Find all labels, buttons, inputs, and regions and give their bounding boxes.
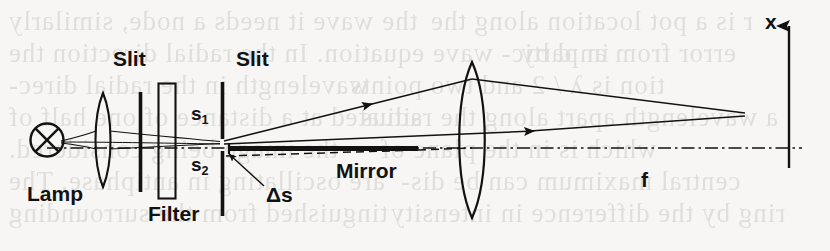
filter-plate (159, 84, 176, 199)
filter-label: Filter (148, 203, 199, 224)
imaging-lens (459, 62, 485, 218)
source-s1-subscript: 1 (202, 113, 209, 127)
source-s1-letter: s (191, 103, 202, 124)
first-slit-label: Slit (113, 48, 146, 69)
lamp-symbol (31, 124, 64, 157)
source-s2-subscript: 2 (202, 164, 209, 178)
lamp-label: Lamp (27, 183, 83, 204)
focal-length-label: f (641, 169, 648, 190)
source-s1-label: s1 (191, 104, 209, 126)
delta-s-leader (229, 154, 264, 186)
source-s2-letter: s (191, 154, 202, 175)
optical-diagram (0, 0, 830, 251)
condenser-lens (96, 93, 111, 187)
optical-setup-figure: the wave it needs a node, similarlyr is … (0, 0, 830, 251)
source-s2-label: s2 (191, 155, 209, 177)
delta-s-label: Δs (266, 184, 293, 205)
x-axis-label: x (765, 11, 777, 32)
mirror-label: Mirror (336, 160, 397, 181)
second-slit-label: Slit (236, 48, 269, 69)
